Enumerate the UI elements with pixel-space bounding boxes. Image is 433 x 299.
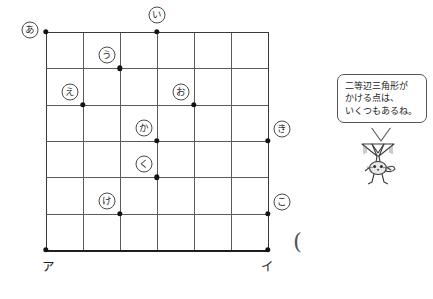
grid-line-horizontal	[46, 68, 268, 69]
speech-bubble-line-3: いくつもあるね。	[345, 105, 422, 117]
point-label-ke: け	[99, 192, 116, 209]
point-label-ku: く	[136, 156, 153, 173]
speech-bubble-line-2: かける点は、	[345, 92, 422, 104]
point-label-o: お	[173, 83, 190, 100]
speech-bubble: 二等辺三角形が かける点は、 いくつもあるね。	[337, 74, 427, 123]
point-label-i: い	[149, 7, 166, 24]
grid-line-horizontal	[46, 214, 268, 215]
mascot-character-icon	[358, 140, 398, 186]
point-label-a: あ	[22, 22, 39, 39]
point-label-u: う	[99, 47, 116, 64]
point-label-ki: き	[274, 121, 291, 138]
point-label-ko: こ	[274, 193, 291, 210]
speech-bubble-line-1: 二等辺三角形が	[345, 80, 422, 92]
grid-line-horizontal	[46, 105, 268, 106]
lattice-point-ko[interactable]	[265, 211, 270, 216]
grid-baseline-segment	[46, 250, 268, 252]
stray-parenthesis-mark: (	[293, 228, 302, 254]
point-label-e: え	[62, 83, 79, 100]
baseline-endpoint-dot[interactable]	[265, 247, 270, 252]
bottom-right-vertex-label: イ	[261, 256, 274, 275]
lattice-point-ki[interactable]	[265, 138, 270, 143]
figure-canvas: あいうえおかきくけこ アイ ( 二等辺三角形が かける点は、 いくつもあるね。	[0, 0, 433, 299]
point-label-ka: か	[136, 120, 153, 137]
bottom-left-vertex-label: ア	[42, 256, 55, 275]
